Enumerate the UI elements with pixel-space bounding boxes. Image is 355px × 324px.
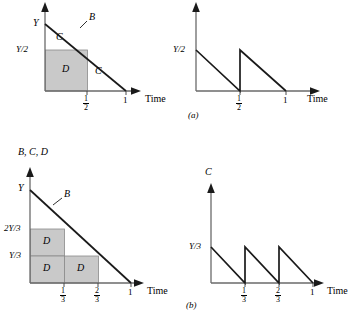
panel-b-left-x-axis-label: Time — [147, 286, 168, 296]
x-axis-arrowhead — [314, 279, 324, 287]
frac-denominator: 3 — [275, 296, 281, 304]
panel-b-left-region-d-lower-right-label: D — [77, 263, 84, 273]
panel-a-right-xtick-one: 1 — [283, 96, 288, 105]
x-axis-arrowhead — [134, 279, 144, 287]
y-axis-arrowhead — [207, 183, 215, 193]
figure-container: Y Y/2 B C C D 1 2 1 Time Y/2 1 2 1 Time … — [0, 0, 355, 324]
series-coupon-sawtooth — [211, 247, 313, 283]
panel-b-right-chart — [207, 183, 324, 287]
panel-a-left-xtick-half: 1 2 — [83, 95, 89, 112]
frac-denominator: 3 — [94, 296, 100, 304]
y-axis-arrowhead — [192, 2, 200, 12]
panel-a-right-chart — [192, 2, 320, 95]
panel-b-left-region-d-lower-left-label: D — [43, 263, 50, 273]
panel-b-left-xtick-twothird: 2 3 — [94, 287, 100, 304]
series-coupon-sawtooth — [196, 50, 286, 91]
panel-a-left-series-b-label: B — [89, 12, 95, 22]
panel-b-left-yaxis-value-two-thirds: 2Y/3 — [4, 224, 21, 233]
panel-a-left-region-c-lower-label: C — [95, 66, 102, 76]
panel-a-right-yaxis-value-half: Y/2 — [173, 45, 185, 54]
panel-b-right-y-axis-label: C — [205, 167, 212, 177]
panel-b-right-xtick-third: 1 3 — [241, 287, 247, 304]
x-axis-arrowhead — [131, 87, 141, 95]
frac-denominator: 3 — [241, 296, 247, 304]
panel-a-caption: (a) — [188, 110, 199, 120]
panel-b-right-xtick-twothird: 2 3 — [275, 287, 281, 304]
panel-a-right-xtick-half: 1 2 — [236, 95, 242, 112]
y-axis-arrowhead — [41, 2, 49, 12]
frac-denominator: 3 — [60, 296, 66, 304]
panel-b-left-y-axis-label: B, C, D — [18, 147, 48, 157]
panel-b-left-xtick-third: 1 3 — [60, 287, 66, 304]
panel-a-left-region-c-upper-label: C — [56, 32, 63, 42]
frac-denominator: 2 — [236, 104, 242, 112]
panel-a-left-x-axis-label: Time — [145, 94, 166, 104]
panel-a-left-yaxis-value-half: Y/2 — [16, 45, 28, 54]
y-axis-arrowhead — [26, 167, 34, 177]
panel-b-left-region-d-upper-left-label: D — [43, 236, 50, 246]
panel-a-right-x-axis-label: Time — [307, 94, 328, 104]
panel-b-caption: (b) — [186, 300, 197, 310]
panel-b-right-x-axis-title: Time — [327, 286, 348, 296]
panel-a-left-y-axis-label: Y — [33, 18, 39, 28]
b-label-leader — [80, 21, 87, 28]
panel-a-left-xtick-one: 1 — [123, 96, 128, 105]
frac-denominator: 2 — [83, 104, 89, 112]
panel-b-right-xtick-one: 1 — [310, 288, 315, 297]
panel-b-left-series-b-label: B — [64, 189, 70, 199]
b-label-leader — [53, 198, 62, 205]
panel-b-right-yaxis-value-third: Y/3 — [189, 242, 201, 251]
panel-a-left-region-d-label: D — [62, 64, 69, 74]
panel-b-left-yaxis-value-y: Y — [18, 183, 24, 193]
panel-b-left-yaxis-value-one-third: Y/3 — [9, 251, 21, 260]
panel-b-left-xtick-one: 1 — [128, 288, 133, 297]
